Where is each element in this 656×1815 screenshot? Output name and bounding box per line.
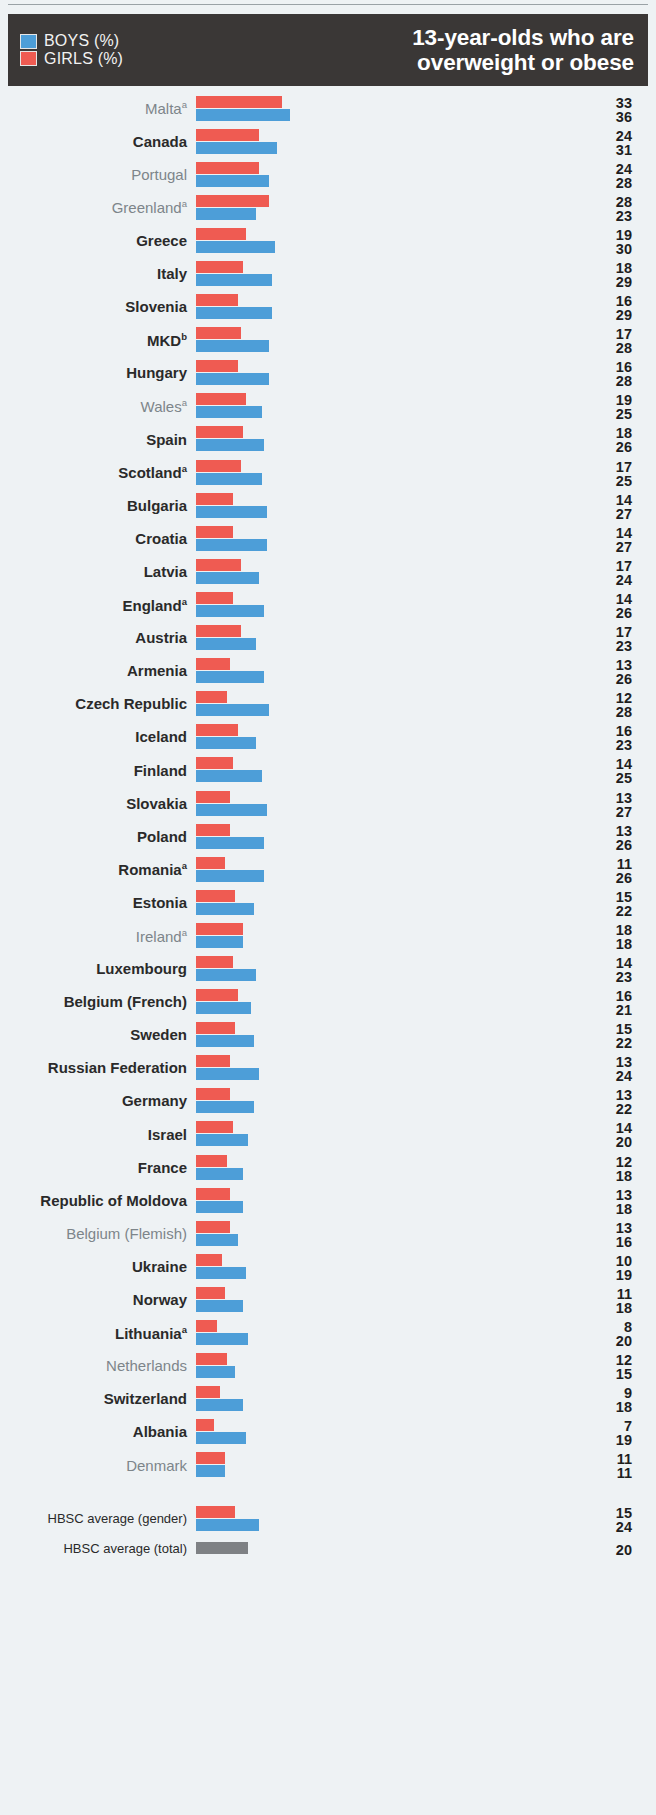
row-values: 1318 [526,1187,644,1215]
bar-girls [196,129,259,141]
chart-row: Belgium (French)1621 [8,986,648,1019]
bar-boys [196,1300,243,1312]
bar-girls [196,890,235,902]
row-values: 1522 [526,1021,644,1049]
chart-row: HBSC average (total)20 [8,1534,648,1564]
value-girls: 24 [616,129,632,144]
bar-group [196,1320,526,1346]
row-values: 1829 [526,260,644,288]
row-values: 1623 [526,723,644,751]
value-boys: 11 [617,1466,632,1481]
bar-boys [196,439,264,451]
footnote-marker: a [182,397,187,408]
row-label: Canada [8,134,196,150]
bar-group [196,658,526,684]
value-boys: 23 [616,639,632,654]
value-girls: 12 [616,1155,632,1170]
bar-girls [196,1353,227,1365]
row-values: 2428 [526,161,644,189]
bar-group [196,1536,526,1562]
row-values: 1826 [526,425,644,453]
bar-boys [196,671,264,683]
row-values: 1326 [526,823,644,851]
row-label: Netherlands [8,1358,196,1374]
chart-row: Canada2431 [8,125,648,158]
chart-row: Slovakia1327 [8,787,648,820]
bar-girls [196,559,241,571]
row-label: Finland [8,763,196,779]
row-label: Germany [8,1093,196,1109]
value-boys: 36 [616,110,632,125]
bar-group [196,956,526,982]
bar-boys [196,572,259,584]
row-values: 1427 [526,492,644,520]
bar-girls [196,824,230,836]
row-values: 2823 [526,194,644,222]
value-boys: 26 [616,838,632,853]
bar-group [196,923,526,949]
chart-row: Lithuaniaa820 [8,1316,648,1349]
bar-boys [196,1519,259,1531]
chart-row: Scotlanda1725 [8,456,648,489]
row-values: 1322 [526,1087,644,1115]
bar-girls [196,956,233,968]
bar-group [196,592,526,618]
bar-boys [196,1002,251,1014]
bar-girls [196,360,238,372]
bar-girls [196,592,233,604]
row-values: 1215 [526,1352,644,1380]
value-boys: 29 [616,308,632,323]
row-label: Estonia [8,895,196,911]
chart-row: Netherlands1215 [8,1350,648,1383]
bar-boys [196,1432,246,1444]
value-boys: 30 [616,242,632,257]
bar-group [196,228,526,254]
chart-row: Bulgaria1427 [8,489,648,522]
bar-girls [196,261,243,273]
legend-label-girls: GIRLS (%) [44,51,123,68]
value-boys: 26 [616,672,632,687]
chart-row: Slovenia1629 [8,291,648,324]
row-label: Albania [8,1424,196,1440]
row-values: 1019 [526,1253,644,1281]
bar-girls [196,493,233,505]
bar-girls [196,1055,230,1067]
value-boys: 19 [616,1268,632,1283]
bar-boys [196,307,272,319]
row-values: 1218 [526,1154,644,1182]
bar-group [196,1506,526,1532]
bar-girls [196,195,269,207]
chart-row: Estonia1522 [8,886,648,919]
value-boys: 20 [616,1334,632,1349]
legend-swatch-girls-icon [20,51,37,66]
bar-boys [196,704,269,716]
row-values: 1725 [526,459,644,487]
row-values: 1327 [526,790,644,818]
footnote-marker: a [182,463,187,474]
bar-group [196,129,526,155]
row-values: 1423 [526,955,644,983]
value-boys: 18 [616,1202,632,1217]
value-total: 20 [616,1543,632,1558]
bar-boys [196,274,272,286]
footnote-marker: a [182,198,187,209]
bar-group [196,1386,526,1412]
row-values: 1427 [526,525,644,553]
bar-girls [196,857,225,869]
value-boys: 25 [616,771,632,786]
row-values: 1126 [526,856,644,884]
row-label: Irelanda [8,928,196,945]
value-boys: 15 [616,1367,632,1382]
chart-row: HBSC average (gender)1524 [8,1504,648,1534]
bar-group [196,989,526,1015]
bar-boys [196,1333,248,1345]
value-boys: 18 [616,1301,632,1316]
chart-summary-rows: HBSC average (gender)1524HBSC average (t… [8,1504,648,1564]
row-values: 1118 [526,1286,644,1314]
value-boys: 16 [616,1235,632,1250]
value-boys: 22 [616,904,632,919]
bar-group [196,1055,526,1081]
value-boys: 20 [616,1135,632,1150]
value-boys: 25 [616,407,632,422]
row-label: France [8,1160,196,1176]
